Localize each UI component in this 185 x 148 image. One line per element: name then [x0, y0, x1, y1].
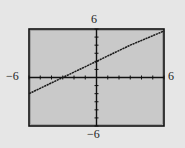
graphing-calculator-window: 6 −6 −6 6: [0, 0, 185, 148]
ymax-label: 6: [91, 13, 97, 25]
xmax-label: 6: [168, 70, 174, 82]
ymin-label: −6: [87, 128, 100, 140]
xmin-label: −6: [6, 70, 19, 82]
